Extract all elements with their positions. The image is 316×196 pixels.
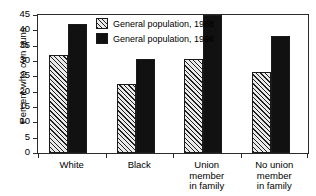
legend-item: General population, 1996 xyxy=(96,32,224,45)
x-tick-mark xyxy=(38,154,39,158)
x-tick-mark xyxy=(241,154,242,158)
bar-group xyxy=(241,15,309,153)
x-category-label: White xyxy=(38,160,106,171)
bar xyxy=(68,24,87,153)
y-tick-label: 20 xyxy=(19,85,30,96)
x-tick-mark xyxy=(173,154,174,158)
bar-chart: Percent who own guns 051015202530354045 … xyxy=(0,0,316,196)
y-tick-label: 45 xyxy=(19,8,30,19)
x-category-label: Unionmemberin family xyxy=(173,160,241,192)
legend-swatch xyxy=(96,33,108,44)
y-tick-label: 10 xyxy=(19,115,30,126)
legend-item: General population, 1988 xyxy=(96,17,224,30)
x-tick-mark xyxy=(106,154,107,158)
bar xyxy=(49,55,68,153)
x-category-label-line: Union xyxy=(173,160,241,171)
x-category-label-line: No union xyxy=(240,160,308,171)
x-category-label-line: in family xyxy=(173,181,241,192)
y-tick-label: 5 xyxy=(25,131,30,142)
x-category-label-line: Black xyxy=(105,160,173,171)
bar xyxy=(252,72,271,153)
legend-label: General population, 1988 xyxy=(113,19,214,29)
y-tick-label: 15 xyxy=(19,100,30,111)
legend-label: General population, 1996 xyxy=(113,34,214,44)
y-tick-label: 25 xyxy=(19,69,30,80)
y-tick-label: 0 xyxy=(25,146,30,157)
bar xyxy=(184,59,203,153)
legend-swatch xyxy=(96,18,108,29)
x-category-label: Black xyxy=(105,160,173,171)
x-category-label-line: in family xyxy=(240,181,308,192)
bar xyxy=(136,59,155,153)
x-category-label-line: White xyxy=(38,160,106,171)
x-category-label: No unionmemberin family xyxy=(240,160,308,192)
bar xyxy=(117,84,136,153)
y-tick-label: 35 xyxy=(19,39,30,50)
bar xyxy=(271,36,290,153)
legend: General population, 1988General populati… xyxy=(96,17,224,47)
x-tick-mark xyxy=(307,154,308,158)
y-tick-label: 30 xyxy=(19,54,30,65)
x-axis-ticks: WhiteBlackUnionmemberin familyNo unionme… xyxy=(38,154,308,196)
y-tick-label: 40 xyxy=(19,23,30,34)
